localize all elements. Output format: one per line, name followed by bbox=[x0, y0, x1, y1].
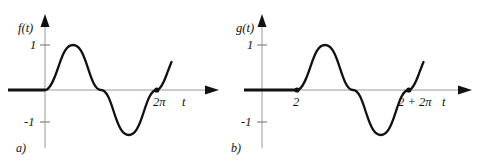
caption-a: a) bbox=[16, 142, 26, 154]
y-tick-label-pos1-a: 1 bbox=[30, 39, 36, 52]
figure-panel-a: f(t) 1 -1 2π t a) bbox=[0, 0, 244, 168]
marker-dot-2plus2pi-b bbox=[406, 87, 411, 92]
x-axis-arrowhead-b bbox=[458, 86, 472, 95]
figure-panel-b: g(t) 1 -1 2 2 + 2π t b) bbox=[243, 0, 487, 168]
marker-dot-2-b bbox=[294, 87, 299, 92]
x-axis-label-b: t bbox=[442, 96, 445, 109]
y-axis-label-a: f(t) bbox=[18, 22, 33, 35]
x-tick-label-2-b: 2 bbox=[293, 96, 299, 109]
y-tick-label-neg1-a: -1 bbox=[24, 116, 34, 129]
y-axis-label-b: g(t) bbox=[236, 22, 254, 35]
plot-a-canvas bbox=[0, 0, 244, 168]
x-axis-arrowhead-a bbox=[205, 86, 219, 95]
marker-dot-2pi-a bbox=[154, 87, 159, 92]
y-tick-label-neg1-b: -1 bbox=[241, 116, 251, 129]
y-axis-arrowhead-a bbox=[41, 14, 50, 27]
x-tick-label-2pi-a: 2π bbox=[153, 96, 166, 109]
y-axis-arrowhead-b bbox=[258, 14, 267, 27]
x-tick-label-2plus2pi-b: 2 + 2π bbox=[398, 96, 431, 109]
y-tick-label-pos1-b: 1 bbox=[247, 39, 253, 52]
caption-b: b) bbox=[231, 142, 241, 154]
x-axis-label-a: t bbox=[182, 96, 185, 109]
plot-b-canvas bbox=[243, 0, 487, 168]
